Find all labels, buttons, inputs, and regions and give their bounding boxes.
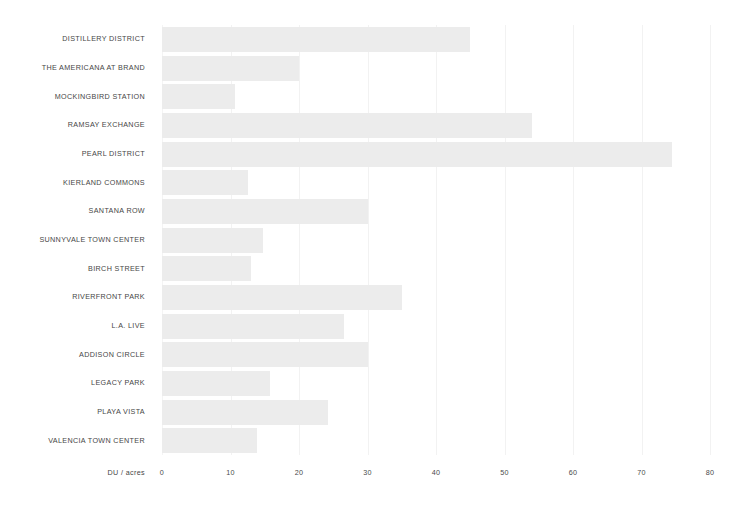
category-label: SUNNYVALE TOWN CENTER xyxy=(0,235,145,245)
category-label: RIVERFRONT PARK xyxy=(0,292,145,302)
bar[interactable] xyxy=(162,142,672,167)
x-tick-label: 60 xyxy=(569,468,578,477)
category-label: ADDISON CIRCLE xyxy=(0,350,145,360)
bar[interactable] xyxy=(162,342,368,367)
bar-chart: DISTILLERY DISTRICTTHE AMERICANA AT BRAN… xyxy=(0,0,741,512)
category-label: THE AMERICANA AT BRAND xyxy=(0,63,145,73)
x-axis-title: DU / acres xyxy=(0,468,145,477)
x-tick-label: 70 xyxy=(637,468,646,477)
bar[interactable] xyxy=(162,84,235,109)
x-tick-label: 10 xyxy=(226,468,235,477)
gridline-80 xyxy=(710,25,711,455)
bar[interactable] xyxy=(162,371,270,396)
bar[interactable] xyxy=(162,199,368,224)
category-label: DISTILLERY DISTRICT xyxy=(0,34,145,44)
category-label: KIERLAND COMMONS xyxy=(0,178,145,188)
bar[interactable] xyxy=(162,113,532,138)
x-axis-tick-labels: 01020304050607080 xyxy=(162,468,710,482)
bars-layer xyxy=(162,25,710,455)
category-label: LEGACY PARK xyxy=(0,378,145,388)
bar[interactable] xyxy=(162,56,299,81)
category-axis-labels: DISTILLERY DISTRICTTHE AMERICANA AT BRAN… xyxy=(0,25,145,455)
bar[interactable] xyxy=(162,285,402,310)
bar[interactable] xyxy=(162,256,251,281)
category-label: VALENCIA TOWN CENTER xyxy=(0,436,145,446)
category-label: PLAYA VISTA xyxy=(0,407,145,417)
category-label: RAMSAY EXCHANGE xyxy=(0,120,145,130)
bar[interactable] xyxy=(162,170,248,195)
category-label: PEARL DISTRICT xyxy=(0,149,145,159)
x-tick-label: 30 xyxy=(363,468,372,477)
category-label: BIRCH STREET xyxy=(0,264,145,274)
x-tick-label: 50 xyxy=(500,468,509,477)
bar[interactable] xyxy=(162,400,328,425)
x-tick-label: 0 xyxy=(160,468,164,477)
category-label: L.A. LIVE xyxy=(0,321,145,331)
bar[interactable] xyxy=(162,314,344,339)
x-tick-label: 40 xyxy=(432,468,441,477)
category-label: MOCKINGBIRD STATION xyxy=(0,92,145,102)
plot-area xyxy=(162,25,710,455)
x-tick-label: 20 xyxy=(295,468,304,477)
bar[interactable] xyxy=(162,228,263,253)
x-tick-label: 80 xyxy=(706,468,715,477)
bar[interactable] xyxy=(162,428,257,453)
category-label: SANTANA ROW xyxy=(0,206,145,216)
bar[interactable] xyxy=(162,27,470,52)
